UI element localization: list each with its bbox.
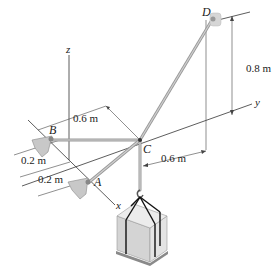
- cables: [52, 20, 212, 190]
- dim-0.2-a-ext: [38, 186, 70, 196]
- label-axis-x: x: [116, 200, 121, 211]
- label-axis-y: y: [255, 97, 260, 108]
- crate: [116, 197, 168, 266]
- dim-0.6-bc-line: [106, 106, 140, 140]
- label-dim-0.2-a: 0.2 m: [38, 174, 63, 185]
- label-point-b: B: [49, 124, 56, 136]
- label-axis-z: z: [66, 44, 70, 55]
- dimension-lines: [14, 16, 234, 196]
- label-point-d: D: [202, 6, 211, 18]
- label-dim-0.2-b: 0.2 m: [21, 155, 46, 166]
- label-point-a: A: [94, 176, 101, 188]
- d-reference-line: [218, 12, 250, 20]
- diagram-canvas: [0, 0, 280, 273]
- label-dim-0.8: 0.8 m: [246, 63, 271, 74]
- label-point-c: C: [143, 143, 151, 155]
- joint-c: [138, 138, 142, 142]
- label-dim-0.6-cd: 0.6 m: [161, 153, 186, 164]
- statics-diagram: D B C A z y x 0.8 m 0.6 m 0.6 m 0.2 m 0.…: [0, 0, 280, 273]
- support-d: [210, 13, 221, 26]
- support-a: [68, 178, 91, 199]
- label-dim-0.6-bc: 0.6 m: [73, 113, 98, 124]
